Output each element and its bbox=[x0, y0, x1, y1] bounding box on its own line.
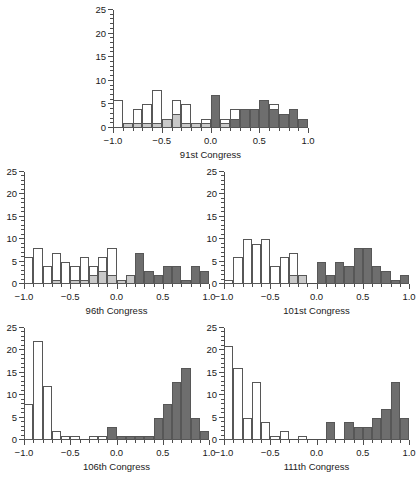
y-tick-minor bbox=[21, 390, 24, 391]
panel-96th-congress: −1.0−0.50.00.51.0051015202596th Congress bbox=[24, 172, 209, 310]
histogram-bar bbox=[172, 266, 181, 284]
histogram-bar bbox=[113, 100, 123, 128]
panel-111th-congress: −1.0−0.50.00.51.00510152025111th Congres… bbox=[224, 328, 409, 466]
histogram-bar bbox=[144, 436, 153, 440]
x-tick-minor bbox=[43, 440, 44, 443]
x-tick-minor bbox=[61, 440, 62, 443]
y-tick-label: 15 bbox=[84, 52, 106, 62]
bars-layer bbox=[224, 328, 409, 440]
histogram-bar bbox=[200, 271, 209, 284]
x-tick-major bbox=[259, 128, 260, 133]
histogram-bar bbox=[335, 262, 344, 284]
x-tick-label: −1.0 bbox=[93, 136, 133, 146]
x-tick-minor bbox=[33, 284, 34, 287]
x-tick-major bbox=[117, 440, 118, 445]
x-tick-minor bbox=[243, 284, 244, 287]
histogram-bar bbox=[200, 431, 209, 440]
x-tick-label: −1.0 bbox=[204, 292, 244, 302]
y-tick-minor bbox=[21, 234, 24, 235]
y-tick-minor bbox=[21, 381, 24, 382]
y-tick-label: 25 bbox=[84, 5, 106, 15]
x-tick-minor bbox=[181, 128, 182, 131]
panel-caption: 101st Congress bbox=[224, 305, 409, 316]
histogram-figure: −1.0−0.50.00.51.0051015202591st Congress… bbox=[0, 0, 420, 477]
y-tick-label: 15 bbox=[0, 212, 17, 222]
histogram-bar bbox=[344, 422, 353, 440]
y-tick-minor bbox=[21, 211, 24, 212]
histogram-bar bbox=[181, 280, 190, 284]
y-tick-major bbox=[219, 261, 224, 262]
y-tick-minor bbox=[221, 274, 224, 275]
y-tick-label: 25 bbox=[0, 167, 17, 177]
histogram-bar bbox=[240, 109, 250, 128]
histogram-bar bbox=[354, 427, 363, 440]
x-tick-minor bbox=[289, 440, 290, 443]
histogram-bar bbox=[154, 418, 163, 440]
x-tick-minor bbox=[391, 440, 392, 443]
x-tick-label: −1.0 bbox=[4, 292, 44, 302]
y-tick-major bbox=[108, 9, 113, 10]
histogram-bar bbox=[269, 109, 279, 128]
panel-91st-congress: −1.0−0.50.00.51.0051015202591st Congress bbox=[113, 10, 308, 154]
x-tick-major bbox=[24, 440, 25, 445]
x-tick-minor bbox=[326, 284, 327, 287]
x-tick-label: 1.0 bbox=[389, 292, 420, 302]
histogram-bar bbox=[191, 123, 201, 128]
x-tick-label: −0.5 bbox=[142, 136, 182, 146]
x-tick-major bbox=[363, 440, 364, 445]
histogram-bar bbox=[98, 436, 107, 440]
y-tick-major bbox=[19, 349, 24, 350]
histogram-bar bbox=[117, 436, 126, 440]
x-tick-minor bbox=[191, 128, 192, 131]
histogram-bar bbox=[289, 275, 298, 284]
bars-layer bbox=[224, 172, 409, 284]
x-tick-label: −0.5 bbox=[250, 292, 290, 302]
x-tick-label: 1.0 bbox=[288, 136, 328, 146]
histogram-bar bbox=[52, 431, 61, 440]
histogram-bar bbox=[172, 114, 182, 128]
histogram-bar bbox=[261, 422, 270, 440]
histogram-bar bbox=[270, 436, 279, 440]
histogram-bar bbox=[162, 119, 172, 128]
histogram-bar bbox=[252, 382, 261, 440]
y-tick-major bbox=[219, 327, 224, 328]
histogram-bar bbox=[61, 436, 70, 440]
y-tick-minor bbox=[221, 180, 224, 181]
histogram-bar bbox=[400, 418, 409, 440]
histogram-bar bbox=[344, 266, 353, 284]
histogram-bar bbox=[133, 123, 143, 128]
bars-layer bbox=[24, 172, 209, 284]
histogram-bar bbox=[126, 275, 135, 284]
y-tick-minor bbox=[110, 23, 113, 24]
x-tick-major bbox=[317, 440, 318, 445]
x-tick-major bbox=[162, 128, 163, 133]
histogram-bar bbox=[243, 239, 252, 284]
y-tick-minor bbox=[221, 243, 224, 244]
plot-area: −1.0−0.50.00.51.00510152025 bbox=[113, 10, 308, 128]
x-tick-minor bbox=[289, 128, 290, 131]
x-tick-major bbox=[317, 284, 318, 289]
histogram-bar bbox=[117, 280, 126, 284]
x-tick-label: −1.0 bbox=[4, 448, 44, 458]
histogram-bar bbox=[107, 427, 116, 440]
y-tick-minor bbox=[21, 180, 24, 181]
x-tick-minor bbox=[107, 440, 108, 443]
y-tick-label: 25 bbox=[0, 323, 17, 333]
y-tick-minor bbox=[21, 331, 24, 332]
x-tick-minor bbox=[154, 284, 155, 287]
histogram-bar bbox=[363, 248, 372, 284]
histogram-bar bbox=[135, 436, 144, 440]
y-tick-minor bbox=[21, 363, 24, 364]
histogram-bar bbox=[211, 95, 221, 128]
histogram-bar bbox=[261, 239, 270, 284]
x-tick-minor bbox=[191, 284, 192, 287]
x-tick-major bbox=[211, 128, 212, 133]
x-tick-label: 0.0 bbox=[97, 292, 137, 302]
y-tick-minor bbox=[221, 220, 224, 221]
x-tick-minor bbox=[191, 440, 192, 443]
histogram-bar bbox=[152, 123, 162, 128]
y-tick-major bbox=[19, 238, 24, 239]
histogram-bar bbox=[298, 275, 307, 284]
x-tick-label: 0.5 bbox=[143, 448, 183, 458]
y-tick-label: 0 bbox=[0, 279, 17, 289]
